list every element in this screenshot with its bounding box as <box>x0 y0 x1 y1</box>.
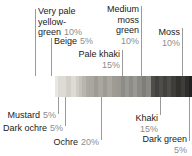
callout-medium-moss-green: Medium moss green 10% <box>95 4 139 46</box>
bar-segment-medium-moss-green <box>137 76 151 97</box>
bar-segment-very-pale-yellow-green <box>62 76 76 97</box>
callout-dark-green: Dark green 5% <box>117 134 187 155</box>
color-proportion-bar <box>55 76 192 97</box>
callout-moss: Moss 10% <box>142 27 180 48</box>
leader-line-pale-khaki <box>122 50 123 76</box>
callout-ochre: Ochre20% <box>30 137 99 148</box>
callout-mustard-percent: 5% <box>43 110 56 120</box>
callout-mustard: Mustard5% <box>0 110 56 121</box>
callout-medium-moss-green-percent: 10% <box>95 36 139 47</box>
bar-segment-moss <box>171 76 185 97</box>
leader-line-ochre <box>101 97 102 140</box>
callout-medium-moss-green-line2: moss <box>95 15 139 26</box>
bar-segment-beige <box>76 76 83 97</box>
callout-khaki: Khaki 15% <box>118 113 158 134</box>
leader-line-dark-ochre <box>65 97 66 126</box>
callout-dark-ochre-label: Dark ochre <box>3 123 47 133</box>
callout-moss-label: Moss <box>142 27 180 38</box>
callout-pale-khaki-label: Pale khaki <box>40 49 120 60</box>
callout-very-pale-yellow-green: Very pale yellow- green10% <box>38 6 82 38</box>
palette-proportion-chart: Very pale yellow- green10% Beige5% Pale … <box>0 0 192 156</box>
callout-pale-khaki-percent: 15% <box>40 60 120 71</box>
callout-beige: Beige5% <box>54 36 93 47</box>
callout-very-pale-yellow-green-line1: Very pale <box>38 6 82 17</box>
callout-dark-ochre-percent: 5% <box>50 123 63 133</box>
callout-moss-percent: 10% <box>142 38 180 49</box>
callout-pale-khaki: Pale khaki 15% <box>40 49 120 70</box>
leader-line-khaki <box>160 97 161 115</box>
leader-line-mustard <box>58 97 59 114</box>
leader-line-moss <box>182 28 183 76</box>
callout-dark-green-percent: 5% <box>117 145 187 156</box>
callout-dark-ochre: Dark ochre5% <box>0 123 63 134</box>
callout-ochre-label: Ochre <box>53 137 78 147</box>
bar-stripe <box>189 76 192 97</box>
callout-medium-moss-green-line3: green <box>95 25 139 36</box>
callout-beige-label: Beige <box>54 36 77 46</box>
callout-dark-green-label: Dark green <box>117 134 187 145</box>
callout-mustard-label: Mustard <box>7 110 40 120</box>
bar-segment-dark-green <box>185 76 192 97</box>
callout-khaki-label: Khaki <box>118 113 158 124</box>
bar-segment-ochre <box>89 76 116 97</box>
callout-khaki-percent: 15% <box>118 124 158 135</box>
callout-very-pale-yellow-green-line2: yellow- <box>38 17 82 28</box>
callout-beige-percent: 5% <box>80 36 93 46</box>
bar-segment-mustard <box>55 76 62 97</box>
callout-ochre-percent: 20% <box>81 137 99 147</box>
bar-segment-pale-khaki <box>117 76 138 97</box>
bar-segment-khaki <box>151 76 172 97</box>
leader-line-dark-green <box>189 97 190 141</box>
callout-medium-moss-green-line1: Medium <box>95 4 139 15</box>
leader-line-very-pale-yellow-green <box>35 9 36 76</box>
bar-segment-dark-ochre <box>82 76 89 97</box>
